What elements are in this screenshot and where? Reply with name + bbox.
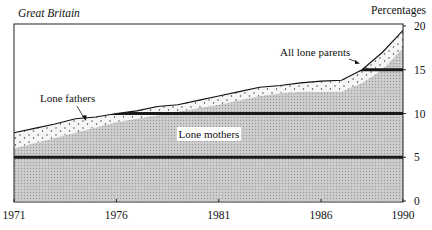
x-tick-label: 1990 <box>392 209 415 221</box>
unit-label: Percentages <box>371 4 426 17</box>
lone-fathers-label: Lone fathers <box>40 92 95 104</box>
y-tick-label: 15 <box>414 64 426 76</box>
y-tick-label: 5 <box>414 151 420 163</box>
x-tick-label: 1971 <box>3 209 26 221</box>
all-lone-parents-label: All lone parents <box>280 46 350 58</box>
y-tick-label: 20 <box>414 20 426 32</box>
lone-mothers-label: Lone mothers <box>179 128 240 140</box>
y-tick-label: 10 <box>414 108 426 120</box>
x-tick-label: 1981 <box>207 209 230 221</box>
region-label: Great Britain <box>18 7 80 19</box>
y-tick-label: 0 <box>414 195 420 207</box>
chart-container: 1971197619811986199005101520 Great Brita… <box>0 0 432 230</box>
area-chart: 1971197619811986199005101520 Great Brita… <box>0 0 432 230</box>
x-tick-label: 1986 <box>310 209 333 221</box>
x-tick-label: 1976 <box>105 209 128 221</box>
